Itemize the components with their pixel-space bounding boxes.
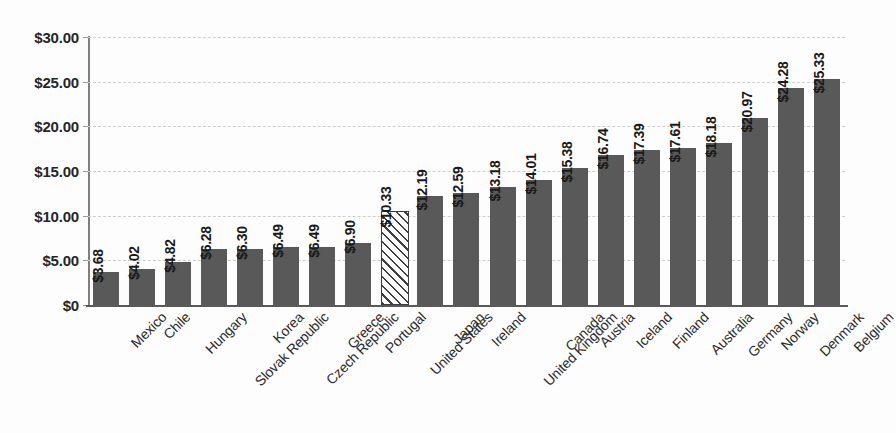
bar-slot: $13.18 xyxy=(485,37,521,305)
plot-area: $0$5.00$10.00$15.00$20.00$25.00$30.00 $3… xyxy=(88,37,845,305)
bar-slot: $20.97 xyxy=(737,37,773,305)
bar-value-label: $17.39 xyxy=(631,123,647,164)
bar-slot: $18.18 xyxy=(701,37,737,305)
y-tick-label: $5.00 xyxy=(42,252,79,269)
bar[interactable] xyxy=(670,148,696,305)
bar[interactable] xyxy=(742,118,768,305)
y-tick-label: $25.00 xyxy=(34,73,79,90)
bar-slot: $14.01 xyxy=(521,37,557,305)
bar-value-label: $10.33 xyxy=(378,186,394,227)
bar-slot: $4.82 xyxy=(160,37,196,305)
bar-value-label: $3.68 xyxy=(90,249,106,283)
bar-value-label: $14.01 xyxy=(523,153,539,194)
bar-value-label: $25.33 xyxy=(811,52,827,93)
bar-slot: $10.33 xyxy=(376,37,412,305)
bar-value-label: $4.82 xyxy=(162,239,178,273)
bar-value-label: $17.61 xyxy=(667,121,683,162)
x-tick-label: Iceland xyxy=(633,309,675,351)
bar[interactable] xyxy=(417,196,443,305)
bar-slot: $12.19 xyxy=(412,37,448,305)
bar-slot: $17.61 xyxy=(665,37,701,305)
bar-value-label: $16.74 xyxy=(595,129,611,170)
x-tick-label: Hungary xyxy=(202,309,250,357)
bar-slot: $6.30 xyxy=(232,37,268,305)
bar-slot: $4.02 xyxy=(124,37,160,305)
bar[interactable] xyxy=(490,187,516,305)
bar[interactable] xyxy=(562,168,588,305)
bar[interactable] xyxy=(814,79,840,305)
bar-slot: $24.28 xyxy=(773,37,809,305)
bar-slot: $6.28 xyxy=(196,37,232,305)
bar-value-label: $6.30 xyxy=(234,226,250,260)
y-tick-label: $0 xyxy=(63,297,79,314)
bar[interactable] xyxy=(706,143,732,305)
bar-slot: $6.49 xyxy=(304,37,340,305)
bar[interactable] xyxy=(598,155,624,305)
bar-value-label: $6.49 xyxy=(270,224,286,258)
bar[interactable] xyxy=(778,88,804,305)
y-tick-label: $30.00 xyxy=(34,29,79,46)
bar-value-label: $6.28 xyxy=(198,226,214,260)
bar-value-label: $24.28 xyxy=(775,62,791,103)
bar-value-label: $4.02 xyxy=(126,246,142,280)
bar-slot: $6.90 xyxy=(340,37,376,305)
bar-value-label: $13.18 xyxy=(487,161,503,202)
bar-slot: $3.68 xyxy=(88,37,124,305)
bar-slot: $16.74 xyxy=(593,37,629,305)
bar-slot: $25.33 xyxy=(809,37,845,305)
x-tick-label: Chile xyxy=(160,309,193,342)
bar-slot: $6.49 xyxy=(268,37,304,305)
bar-value-label: $6.90 xyxy=(342,221,358,255)
bar-slot: $12.59 xyxy=(448,37,484,305)
x-tick-label: Ireland xyxy=(488,309,529,350)
x-tick-label: Finland xyxy=(669,309,712,352)
bar-value-label: $18.18 xyxy=(703,116,719,157)
bar-value-label: $12.59 xyxy=(450,166,466,207)
y-tick-label: $20.00 xyxy=(34,118,79,135)
y-tick-label: $15.00 xyxy=(34,163,79,180)
bar-value-label: $12.19 xyxy=(414,170,430,211)
bar-slot: $17.39 xyxy=(629,37,665,305)
bar[interactable] xyxy=(526,180,552,305)
bar-value-label: $20.97 xyxy=(739,91,755,132)
bar[interactable] xyxy=(453,193,479,305)
y-tick-label: $10.00 xyxy=(34,207,79,224)
bar-value-label: $6.49 xyxy=(306,224,322,258)
x-axis-line xyxy=(86,305,848,307)
bar-value-label: $15.38 xyxy=(559,141,575,182)
bar-slot: $15.38 xyxy=(557,37,593,305)
bar[interactable] xyxy=(634,150,660,305)
